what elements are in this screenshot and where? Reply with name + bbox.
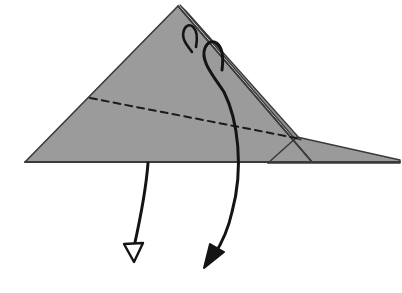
origami-diagram-canvas bbox=[0, 0, 402, 293]
origami-diagram-root bbox=[0, 0, 402, 293]
